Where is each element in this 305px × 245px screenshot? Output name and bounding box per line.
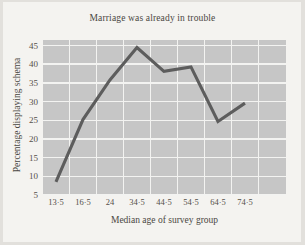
x-tick-label: 74·5 — [237, 198, 253, 207]
y-tick-label: 25 — [29, 116, 38, 125]
y-tick-label: 20 — [29, 134, 38, 143]
data-series-polyline — [56, 47, 245, 181]
x-tick-label: 64·5 — [210, 198, 226, 207]
x-tick-label: 24 — [106, 198, 115, 207]
x-tick-label: 16·5 — [75, 198, 91, 207]
plot-area — [43, 40, 286, 195]
figure-container: Marriage was already in trouble Percenta… — [0, 0, 305, 245]
y-tick-label: 35 — [29, 78, 38, 87]
y-axis-tick-labels: 45403530252015105 — [0, 40, 41, 195]
scan-edge-top — [0, 0, 305, 2]
x-axis-title: Median age of survey group — [43, 215, 286, 225]
scan-edge-right — [301, 0, 305, 245]
y-tick-label: 10 — [29, 172, 38, 181]
y-tick-label: 40 — [29, 60, 38, 69]
x-tick-label: 44·5 — [156, 198, 172, 207]
data-line — [43, 40, 286, 195]
y-tick-label: 30 — [29, 97, 38, 106]
y-tick-label: 45 — [29, 41, 38, 50]
x-axis-tick-labels: 13·516·52434·544·554·564·574·5 — [43, 198, 286, 212]
x-tick-label: 13·5 — [48, 198, 64, 207]
chart-title: Marriage was already in trouble — [0, 13, 305, 23]
y-tick-label: 15 — [29, 153, 38, 162]
x-tick-label: 34·5 — [129, 198, 145, 207]
x-tick-label: 54·5 — [183, 198, 199, 207]
y-tick-label: 5 — [34, 191, 39, 200]
